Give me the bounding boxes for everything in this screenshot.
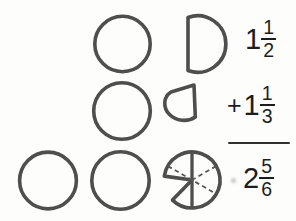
scan-artifact-dot xyxy=(231,178,236,183)
fraction: 1 3 xyxy=(260,85,275,125)
fraction-numerator: 5 xyxy=(259,158,274,179)
sixths-divider-dashed-radius xyxy=(192,166,216,180)
fraction-addition-figure: 1 1 2 + 1 1 3 2 5 6 xyxy=(0,0,296,221)
whole-number: 1 xyxy=(245,25,261,54)
fraction-denominator: 3 xyxy=(262,106,273,125)
addend-one-value: 1 1 2 xyxy=(243,19,276,59)
whole-circle-icon xyxy=(95,16,150,71)
fraction-numerator: 1 xyxy=(260,85,275,106)
whole-circle-icon xyxy=(92,152,149,209)
sum-value: 2 5 6 xyxy=(241,158,274,198)
fraction: 1 2 xyxy=(261,19,276,59)
plus-sign: + xyxy=(227,93,242,118)
fraction: 5 6 xyxy=(259,158,274,198)
fraction-denominator: 2 xyxy=(263,40,274,59)
whole-number: 2 xyxy=(243,164,259,193)
one-half-piece-icon xyxy=(188,16,226,72)
fraction-numerator: 1 xyxy=(261,19,276,40)
whole-number: 1 xyxy=(244,91,260,120)
one-third-piece-icon xyxy=(165,85,196,120)
whole-circle-icon xyxy=(94,83,151,140)
addend-two-value: + 1 1 3 xyxy=(227,85,275,125)
whole-circle-icon xyxy=(20,152,77,209)
fraction-denominator: 6 xyxy=(261,179,272,198)
